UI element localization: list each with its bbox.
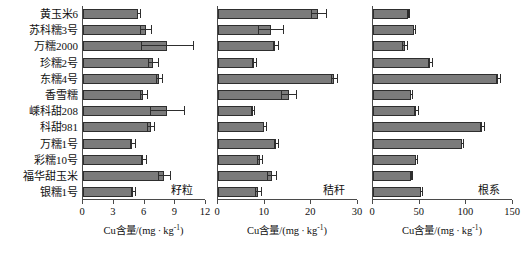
error-bar-cap [256,58,257,67]
bar-row [218,103,358,119]
error-bar-cap [415,25,416,34]
category-label: 万糯1号 [40,136,79,152]
bar-row [83,6,206,22]
bar [218,74,334,84]
bar [218,155,260,165]
bar [83,155,143,165]
error-bar-cap [296,90,297,99]
bar-row [218,55,358,71]
error-bar [267,175,275,176]
bar [83,187,133,197]
bar-row [218,152,358,168]
bar-row [218,71,358,87]
bar-row [373,119,513,135]
category-label: 银糯1号 [40,184,79,200]
error-bar-cap [140,25,141,34]
error-bar [141,45,192,46]
error-bar-cap [257,155,258,164]
error-bar-cap [267,171,268,180]
category-label: 珍糯2号 [40,55,79,71]
category-axis-labels: 黄玉米6苏科糯3号万糯2000珍糯2号东糯4号香雪糯嵊科甜208科甜981万糯1… [0,6,80,206]
panel-秸秆: 0102030秸秆Cu含量/(mg · kg-1) [217,6,387,255]
bar-row [373,38,513,54]
x-axis-title: Cu含量/(mg · kg-1) [227,222,347,237]
x-axis-tick [372,200,373,204]
error-bar-cap [141,41,142,50]
error-bar-cap [331,74,332,83]
error-bar-cap [326,9,327,18]
error-bar-cap [496,74,497,83]
bar-row [373,103,513,119]
error-bar-cap [418,106,419,115]
x-axis-tick-label: 10 [244,206,284,217]
bar-row [83,119,206,135]
category-label: 黄玉米6 [40,6,79,22]
x-axis-title: Cu含量/(mg · kg-1) [382,222,502,237]
error-bar-cap [414,106,415,115]
error-bar-cap [141,155,142,164]
error-bar-cap [274,139,275,148]
error-bar-cap [263,122,264,131]
category-label: 嵊科甜208 [29,103,79,119]
chart-figure: 黄玉米6苏科糯3号万糯2000珍糯2号东糯4号香雪糯嵊科甜208科甜981万糯1… [0,0,526,261]
x-axis-tick [357,200,358,204]
x-axis-tick-label: 0 [352,206,392,217]
category-label: 科甜981 [40,119,79,135]
category-label: 东糯4号 [40,71,79,87]
error-bar-cap [417,155,418,164]
bar [83,171,164,181]
panel-title: 秸秆 [323,181,345,197]
error-bar-cap [428,58,429,67]
error-bar-cap [148,58,149,67]
error-bar-cap [283,25,284,34]
bar-row [218,6,358,22]
bar [373,155,416,165]
x-axis-tick [217,200,218,204]
error-bar [258,29,283,30]
bar-row [373,87,513,103]
error-bar-cap [407,41,408,50]
error-bar-cap [266,122,267,131]
bar [373,122,482,132]
error-bar-cap [158,58,159,67]
bar [83,139,132,149]
panel-title: 根系 [478,181,500,197]
error-bar [147,126,154,127]
category-label: 苏科糯3号 [29,22,79,38]
error-bar-cap [262,155,263,164]
bar [218,90,289,100]
x-axis-title: Cu含量/(mg · kg-1) [84,222,204,237]
error-bar-cap [410,90,411,99]
error-bar-cap [170,171,171,180]
error-bar-cap [154,122,155,131]
error-bar [148,62,158,63]
error-bar [150,110,185,111]
category-label: 香雪糯 [45,87,78,103]
bar-row [83,55,206,71]
error-bar-cap [412,171,413,180]
bar-row [83,38,206,54]
error-bar-cap [255,187,256,196]
bar-row [373,6,513,22]
error-bar-cap [276,171,277,180]
error-bar-cap [432,58,433,67]
bar [373,74,498,84]
error-bar-cap [147,122,148,131]
bar [373,90,411,100]
error-bar-cap [422,187,423,196]
bar-row [83,136,206,152]
error-bar-cap [480,122,481,131]
bar [83,9,138,19]
bar-row [373,152,513,168]
error-bar-cap [412,90,413,99]
error-bar-cap [463,139,464,148]
bar [373,171,411,181]
x-axis-tick [512,200,513,204]
error-bar-cap [402,41,403,50]
error-bar-cap [130,139,131,148]
category-label: 彩糯10号 [34,152,78,168]
error-bar-cap [135,187,136,196]
bar-row [373,55,513,71]
bar-row [83,71,206,87]
error-bar-cap [278,41,279,50]
